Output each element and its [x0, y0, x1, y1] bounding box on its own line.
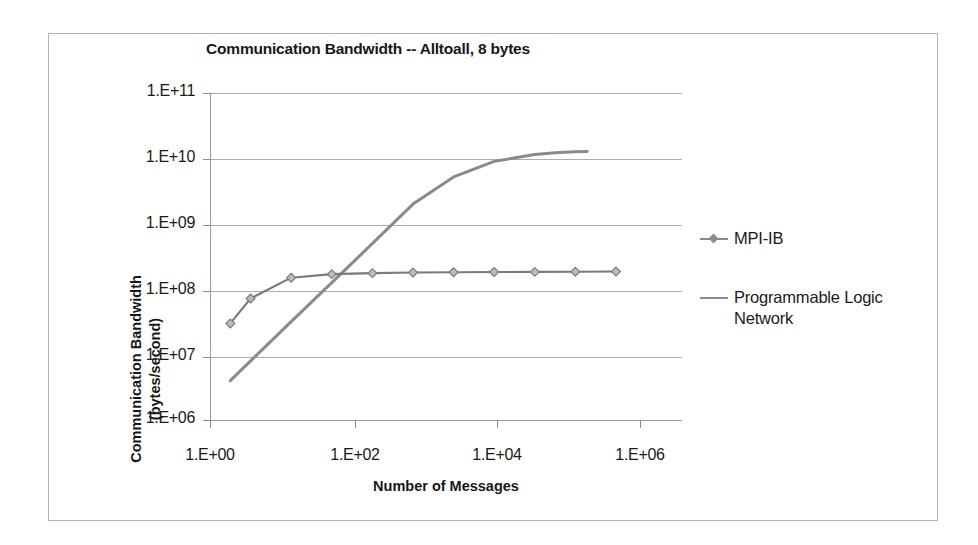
y-tick-1e11	[203, 93, 211, 94]
gridline-1e09	[210, 225, 682, 226]
gridline-1e11	[210, 93, 682, 94]
y-tick-1e10	[203, 159, 211, 160]
y-tick-1e09	[203, 225, 211, 226]
x-tick-1e06	[640, 420, 641, 428]
x-tick-label-1e06: 1.E+06	[580, 446, 700, 464]
y-tick-1e07	[203, 357, 211, 358]
y-tick-1e08	[203, 291, 211, 292]
y-axis-line	[210, 93, 211, 421]
y-tick-label-1e08: 1.E+08	[105, 280, 195, 298]
legend-diamond-marker-icon	[700, 237, 728, 240]
gridline-1e10	[210, 159, 682, 160]
x-tick-1e00	[210, 420, 211, 428]
legend-label-mpi-ib: MPI-IB	[734, 229, 783, 247]
x-axis-line	[210, 420, 682, 421]
legend-entry-mpi-ib[interactable]: MPI-IB	[700, 228, 930, 249]
x-tick-label-1e02: 1.E+02	[295, 446, 415, 464]
y-tick-label-1e09: 1.E+09	[105, 214, 195, 232]
x-tick-label-1e04: 1.E+04	[437, 446, 557, 464]
y-tick-label-1e06: 1.E+06	[105, 409, 195, 427]
legend-entry-programmable-logic-network[interactable]: Programmable Logic Network	[700, 287, 930, 329]
x-tick-label-1e00: 1.E+00	[150, 446, 270, 464]
x-tick-1e02	[355, 420, 356, 428]
legend-label-programmable-logic-network: Programmable Logic Network	[734, 288, 883, 327]
y-tick-label-1e11: 1.E+11	[105, 82, 195, 100]
x-axis-title: Number of Messages	[210, 478, 682, 494]
y-tick-label-1e07: 1.E+07	[105, 346, 195, 364]
gridline-1e08	[210, 291, 682, 292]
x-tick-1e04	[497, 420, 498, 428]
legend: MPI-IB Programmable Logic Network	[700, 228, 930, 367]
plot-area	[210, 93, 682, 420]
y-tick-label-1e10: 1.E+10	[105, 148, 195, 166]
legend-line-swatch-icon	[700, 296, 728, 299]
gridline-1e07	[210, 357, 682, 358]
